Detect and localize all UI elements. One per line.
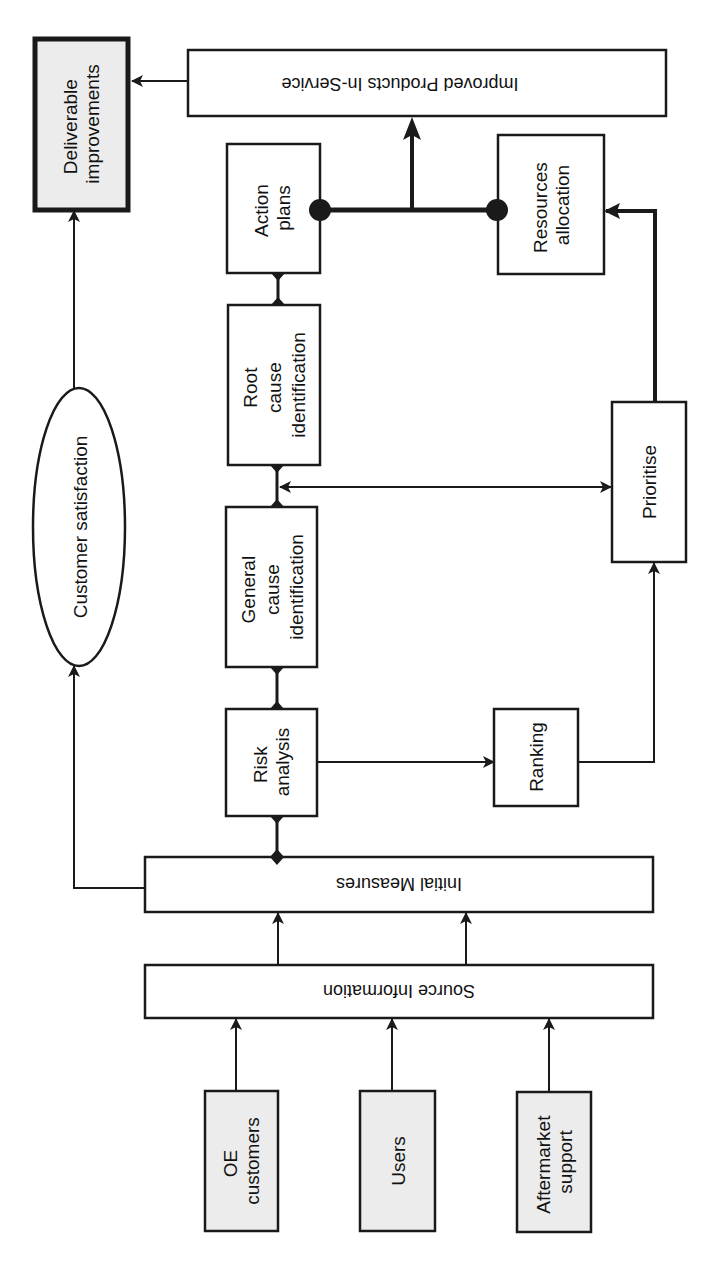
aftermarket-label-2: support bbox=[555, 1130, 576, 1194]
resources-label-1: Resources bbox=[530, 162, 551, 253]
root-label-3: identification bbox=[288, 332, 309, 438]
source-information-box: Source Information bbox=[145, 965, 653, 1018]
customer-satisfaction-label: Customer satisfaction bbox=[70, 436, 91, 619]
resources-label-2: allocation bbox=[552, 165, 573, 245]
svg-text:Deliverable improvements: Deliverable improvements bbox=[60, 64, 103, 183]
improved-products-label: Improved Products In-Service bbox=[281, 74, 518, 94]
oe-customers-label-2: customers bbox=[242, 1117, 263, 1205]
process-diagram: OE customers Users Aftermarket support S… bbox=[0, 0, 709, 1266]
action-label-1: Action bbox=[251, 184, 272, 237]
resources-allocation-box: Resources allocation bbox=[498, 135, 604, 274]
svg-text:Users: Users bbox=[388, 1136, 409, 1186]
general-label-2: cause bbox=[262, 564, 283, 615]
arrow-prioritise-to-resources bbox=[606, 211, 655, 402]
general-cause-box: General cause identification bbox=[226, 507, 317, 667]
risk-label-1: Risk bbox=[250, 746, 271, 783]
improved-products-box: Improved Products In-Service bbox=[188, 50, 666, 116]
risk-analysis-box: Risk analysis bbox=[226, 709, 317, 816]
source-box-users: Users bbox=[360, 1091, 435, 1231]
deliverable-label-2: improvements bbox=[82, 64, 103, 183]
arrow-ranking-to-prioritise bbox=[578, 563, 654, 762]
initial-measures-label: Initial Measures bbox=[336, 874, 462, 894]
svg-text:Action plans: Action plans bbox=[251, 179, 294, 237]
junction-dot-icon bbox=[486, 199, 508, 221]
svg-text:Resources allocation: Resources allocation bbox=[530, 157, 573, 253]
root-label-2: cause bbox=[264, 362, 285, 413]
prioritise-box: Prioritise bbox=[612, 402, 686, 562]
oe-customers-label-1: OE bbox=[220, 1150, 241, 1177]
root-label-1: Root bbox=[240, 367, 261, 408]
root-cause-box: Root cause identification bbox=[228, 305, 320, 465]
source-information-label: Source Information bbox=[323, 981, 475, 1001]
ranking-label: Ranking bbox=[526, 722, 547, 792]
ranking-box: Ranking bbox=[494, 709, 578, 806]
aftermarket-label-1: Aftermarket bbox=[533, 1115, 554, 1214]
deliverable-improvements-box: Deliverable improvements bbox=[35, 39, 128, 210]
customer-satisfaction-node: Customer satisfaction bbox=[33, 388, 125, 666]
general-label-3: identification bbox=[286, 534, 307, 640]
junction-dot-icon bbox=[309, 199, 331, 221]
source-box-oe-customers: OE customers bbox=[205, 1091, 278, 1231]
prioritise-label: Prioritise bbox=[639, 445, 660, 519]
action-label-2: plans bbox=[273, 185, 294, 230]
source-box-aftermarket-support: Aftermarket support bbox=[517, 1092, 591, 1232]
risk-label-2: analysis bbox=[272, 728, 293, 797]
general-label-1: General bbox=[238, 556, 259, 624]
action-plans-box: Action plans bbox=[227, 144, 320, 273]
initial-measures-box: Initial Measures bbox=[145, 857, 653, 912]
arrow-initial-to-satisfaction bbox=[74, 666, 145, 888]
deliverable-label-1: Deliverable bbox=[60, 79, 81, 174]
users-label: Users bbox=[388, 1136, 409, 1186]
